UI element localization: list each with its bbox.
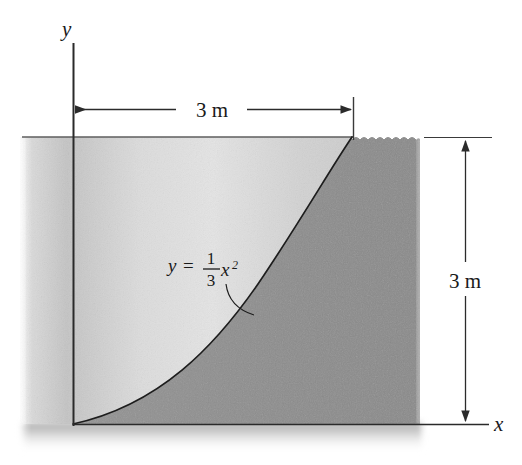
engineering-diagram: y x 3 m 3 m y = 1 3 x 2 xyxy=(0,0,522,465)
equation-equals: = xyxy=(183,255,194,276)
dimension-label-width: 3 m xyxy=(196,98,228,122)
figure-root: y x 3 m 3 m y = 1 3 x 2 xyxy=(0,0,522,465)
dimension-vertical: 3 m xyxy=(424,138,492,422)
block-right-feather xyxy=(417,137,423,424)
dimension-label-height: 3 m xyxy=(449,269,481,293)
block-left-feather xyxy=(16,137,25,424)
equation-lhs: y xyxy=(166,255,177,276)
equation-numerator: 1 xyxy=(207,249,216,268)
x-axis-label: x xyxy=(493,412,504,436)
y-axis-label: y xyxy=(60,17,72,41)
equation-exponent: 2 xyxy=(232,258,238,272)
dimension-horizontal: 3 m xyxy=(76,97,354,140)
equation-variable: x xyxy=(220,259,230,280)
equation-denominator: 3 xyxy=(207,271,216,290)
